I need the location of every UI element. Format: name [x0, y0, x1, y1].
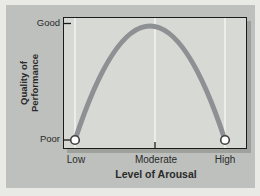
- performance-curve: [75, 26, 225, 140]
- data-point-high-arousal: [221, 136, 230, 145]
- x-tick-label-moderate: Moderate: [116, 154, 196, 165]
- y-tick-label-good: Good: [19, 18, 60, 28]
- x-tick-label-high: High: [199, 154, 251, 165]
- chart-panel: Quality of Performance Good Poor Low Mod…: [6, 5, 255, 188]
- y-tick-label-poor: Poor: [19, 134, 60, 144]
- plot-area: [63, 17, 247, 149]
- y-axis-title: Quality of Performance: [18, 54, 40, 112]
- y-axis-title-line2: Performance: [29, 54, 40, 112]
- chart-canvas: [64, 18, 246, 148]
- x-axis-title: Level of Arousal: [56, 168, 256, 180]
- y-axis-title-line1: Quality of: [18, 54, 29, 112]
- page-background: Quality of Performance Good Poor Low Mod…: [0, 0, 260, 196]
- x-tick-label-low: Low: [50, 154, 102, 165]
- data-point-low-arousal: [71, 136, 80, 145]
